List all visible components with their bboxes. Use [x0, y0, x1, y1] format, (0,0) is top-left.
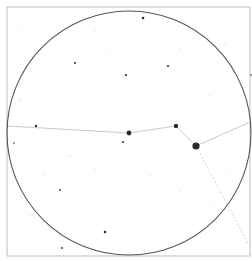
- constellation-line: [196, 122, 250, 146]
- star[interactable]: [125, 74, 127, 76]
- faint-star: [159, 87, 160, 88]
- faint-star: [224, 44, 225, 45]
- star[interactable]: [104, 231, 107, 234]
- constellation-lines: [7, 122, 250, 247]
- faint-star: [229, 169, 230, 170]
- faint-star: [109, 49, 110, 50]
- star[interactable]: [167, 65, 169, 67]
- faint-star: [179, 189, 180, 190]
- faint-star: [94, 29, 95, 30]
- faint-star: [199, 21, 200, 22]
- constellation-line: [7, 126, 129, 133]
- faint-star: [239, 139, 240, 140]
- faint-star: [29, 214, 30, 215]
- constellation-line: [129, 126, 176, 133]
- faint-star: [209, 94, 210, 95]
- sky-chart[interactable]: [0, 0, 252, 261]
- faint-star: [84, 244, 85, 245]
- star[interactable]: [59, 189, 61, 191]
- constellation-star[interactable]: [35, 125, 37, 127]
- constellation-star[interactable]: [127, 131, 132, 136]
- faint-star: [94, 169, 95, 170]
- faint-star: [149, 174, 150, 175]
- star[interactable]: [122, 141, 124, 143]
- faint-star: [139, 239, 140, 240]
- faint-star: [124, 199, 125, 200]
- star[interactable]: [250, 74, 252, 76]
- constellation-star[interactable]: [192, 142, 199, 149]
- constellation-line: [196, 146, 250, 247]
- faint-star: [87, 96, 88, 97]
- faint-star: [39, 59, 40, 60]
- faint-star: [179, 49, 180, 50]
- constellation-star[interactable]: [174, 124, 178, 128]
- faint-star: [19, 99, 20, 100]
- faint-star: [44, 174, 45, 175]
- star[interactable]: [74, 62, 76, 64]
- constellation-stars: [35, 124, 200, 150]
- star[interactable]: [142, 17, 145, 20]
- star[interactable]: [13, 142, 15, 144]
- faint-star: [209, 204, 210, 205]
- star[interactable]: [61, 247, 63, 249]
- constellation-line: [176, 126, 196, 146]
- faint-star: [21, 26, 22, 27]
- faint-star: [69, 155, 70, 156]
- faint-star: [159, 214, 160, 215]
